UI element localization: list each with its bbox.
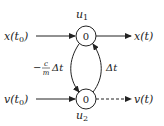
gain-numerator: c: [44, 60, 48, 68]
output-x-label: x(t): [134, 30, 153, 43]
output-x-t: x(t): [96, 30, 153, 43]
edge-u1-u2-gain: −: [33, 62, 41, 73]
edge-u2-to-u1: [93, 44, 101, 92]
output-v-label: v(t): [134, 93, 153, 106]
output-v-t: v(t): [96, 93, 153, 106]
input-x-t0: x(t0): [4, 30, 75, 44]
node-u1-value: 0: [83, 31, 89, 42]
node-u1-label: u1: [76, 8, 88, 22]
signal-flow-diagram: 0 u1 0 u2 x(t0) x(t) v(t0) v(t) − c m Δt…: [0, 0, 164, 126]
edge-u1-to-u2: [71, 44, 79, 92]
edge-u2-u1-gain: Δt: [105, 62, 118, 73]
input-v-label: v(t0): [4, 93, 28, 107]
gain-denominator: m: [43, 69, 50, 77]
node-u2-label: u2: [76, 109, 88, 123]
node-u2: 0 u2: [76, 89, 96, 123]
input-v-t0: v(t0): [4, 93, 75, 107]
node-u1: 0 u1: [76, 8, 96, 46]
input-x-label: x(t0): [4, 30, 28, 44]
node-u2-value: 0: [83, 94, 89, 105]
gain-delta-t: Δt: [51, 62, 64, 73]
